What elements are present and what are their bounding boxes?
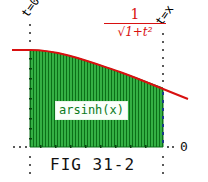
axis-zero-label: 0 <box>180 139 188 154</box>
formula-denominator: √1+t² <box>104 24 166 40</box>
curve-formula: 1 √1+t² <box>104 6 166 40</box>
area-label: arsinh(x) <box>55 101 128 120</box>
figure-caption: FIG 31-2 <box>50 155 135 174</box>
formula-numerator: 1 <box>104 6 166 22</box>
